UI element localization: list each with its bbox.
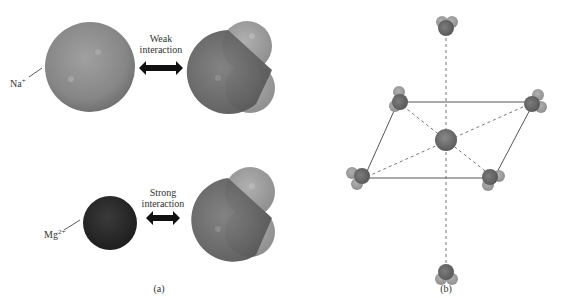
water-eq-1 bbox=[389, 86, 408, 112]
panel-a-caption: (a) bbox=[148, 283, 170, 294]
mg-ion-label: Mg2+ bbox=[44, 229, 65, 240]
water-eq-2 bbox=[524, 89, 547, 113]
strong-interaction-arrow bbox=[146, 211, 180, 225]
mg-leader-line bbox=[64, 220, 80, 230]
na-ion-label: Na+ bbox=[10, 78, 26, 89]
magnesium-ion bbox=[83, 196, 137, 250]
water-axial-top bbox=[436, 16, 458, 36]
water-molecule-top bbox=[187, 21, 275, 114]
na-leader-line bbox=[29, 68, 42, 77]
weak-interaction-label: Weakinteraction bbox=[138, 33, 184, 55]
water-molecule-bottom bbox=[191, 167, 275, 262]
panel-b-caption: (b) bbox=[435, 283, 457, 294]
strong-interaction-label: Stronginteraction bbox=[140, 187, 186, 209]
water-eq-3 bbox=[346, 167, 370, 190]
weak-interaction-arrow bbox=[139, 61, 183, 75]
central-ion bbox=[435, 129, 457, 151]
water-eq-4 bbox=[482, 169, 505, 191]
sodium-ion bbox=[45, 22, 135, 112]
octahedral-complex bbox=[346, 16, 547, 285]
diagram-canvas bbox=[0, 0, 587, 300]
water-axial-bottom bbox=[435, 264, 458, 285]
